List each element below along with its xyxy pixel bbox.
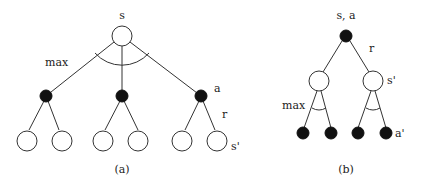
next-action-label: a' (395, 127, 405, 140)
root-state-node (112, 26, 132, 46)
edge (48, 101, 59, 130)
next-state-label: s' (231, 140, 240, 153)
leaf-state-node (207, 131, 227, 151)
edge (124, 101, 138, 130)
max-arc-right (366, 108, 380, 110)
caption-b: (b) (338, 163, 354, 176)
backup-diagrams: s max a r s' (a) s, a r s' max a' (b (0, 0, 422, 191)
state-node (309, 71, 329, 91)
action-node (195, 90, 207, 102)
reward-label: r (369, 42, 375, 55)
action-label: a (214, 82, 221, 95)
next-state-label: s' (387, 74, 396, 87)
leaf-state-node (52, 131, 72, 151)
leaf-state-node (128, 131, 148, 151)
leaf-action-node (352, 127, 364, 139)
edge-root-to-state-1 (323, 41, 342, 72)
max-label: max (282, 99, 306, 112)
action-node (116, 90, 128, 102)
action-node (40, 90, 52, 102)
edge (105, 101, 120, 130)
max-label: max (45, 56, 69, 69)
edge (185, 101, 199, 130)
edge-root-to-action-3 (130, 42, 201, 96)
leaf-state-node (93, 131, 113, 151)
leaf-action-node (380, 127, 392, 139)
edge (29, 101, 44, 130)
reward-label: r (222, 108, 228, 121)
root-label: s (119, 9, 125, 22)
diagram-b: s, a r s' max a' (b) (282, 9, 405, 176)
leaf-action-node (325, 127, 337, 139)
root-label: s, a (336, 9, 356, 22)
edge-root-to-action-1 (46, 42, 114, 96)
edge (203, 101, 215, 130)
root-action-node (340, 30, 352, 42)
caption-a: (a) (114, 163, 129, 176)
leaf-state-node (172, 131, 192, 151)
leaf-state-node (17, 131, 37, 151)
diagram-a: s max a r s' (a) (17, 9, 240, 176)
edge-root-to-state-2 (350, 41, 369, 72)
max-arc-left (312, 108, 326, 110)
leaf-action-node (297, 127, 309, 139)
state-node (363, 71, 383, 91)
